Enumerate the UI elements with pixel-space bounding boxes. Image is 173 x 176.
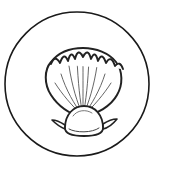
icon-canvas <box>0 0 173 176</box>
seashell-icon <box>0 0 173 176</box>
shell-group <box>46 48 123 136</box>
